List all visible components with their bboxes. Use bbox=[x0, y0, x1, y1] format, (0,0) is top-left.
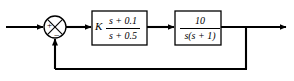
summing-junction-plus-sign: + bbox=[47, 21, 52, 30]
plant-numerator: 10 bbox=[193, 15, 207, 27]
compensator-gain-label: K bbox=[95, 21, 102, 32]
plant-transfer-function: 10 s(s + 1) bbox=[180, 15, 220, 41]
compensator-fraction-bar bbox=[106, 28, 140, 29]
plant-denominator: s(s + 1) bbox=[182, 30, 217, 42]
compensator-transfer-function: s + 0.1 s + 0.5 bbox=[106, 15, 140, 41]
plant-fraction-bar bbox=[180, 28, 220, 29]
compensator-denominator: s + 0.5 bbox=[107, 30, 139, 42]
summing-junction-minus-sign: − bbox=[54, 31, 60, 41]
compensator-numerator: s + 0.1 bbox=[107, 15, 139, 27]
block-diagram-canvas bbox=[0, 0, 294, 81]
block-diagram: + − K s + 0.1 s + 0.5 10 s(s + 1) bbox=[0, 0, 294, 81]
